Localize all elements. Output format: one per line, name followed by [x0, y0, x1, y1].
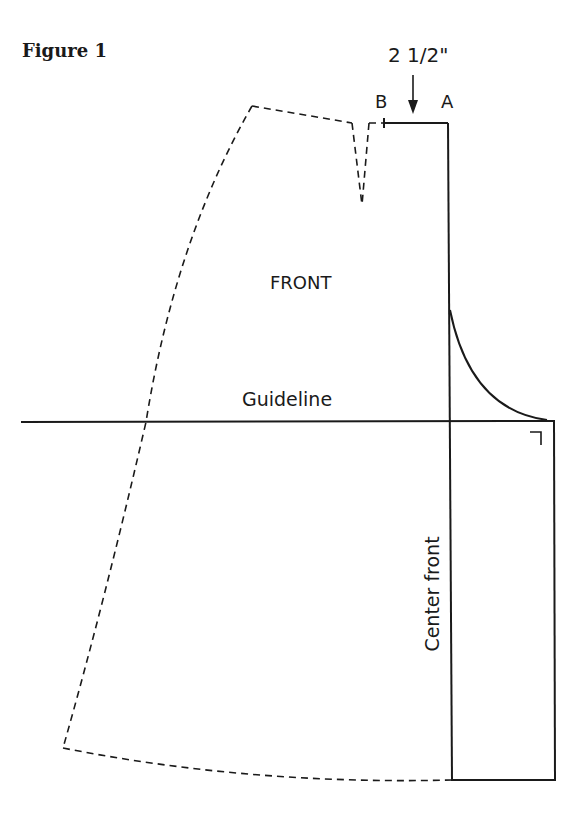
down-arrow-icon	[408, 75, 418, 114]
hem-line	[63, 748, 452, 781]
neck-curve	[450, 310, 547, 420]
dashed-outline	[63, 106, 452, 781]
right-angle-icon	[530, 432, 541, 445]
center-front-line	[448, 123, 452, 781]
extension-right-edge	[554, 420, 555, 781]
measurement-label: 2 1/2"	[388, 43, 448, 67]
dart-left-leg	[352, 123, 362, 205]
waist-line-left	[252, 106, 352, 123]
guideline-label: Guideline	[242, 388, 332, 410]
dart-right-leg	[362, 123, 369, 205]
front-label: FRONT	[270, 272, 332, 293]
pattern-diagram	[0, 0, 584, 836]
center-front-label: Center front	[421, 536, 443, 651]
point-b-label: B	[375, 91, 387, 112]
solid-outline	[21, 118, 555, 781]
side-seam	[63, 106, 252, 748]
guideline	[21, 421, 555, 422]
point-a-label: A	[441, 91, 453, 112]
